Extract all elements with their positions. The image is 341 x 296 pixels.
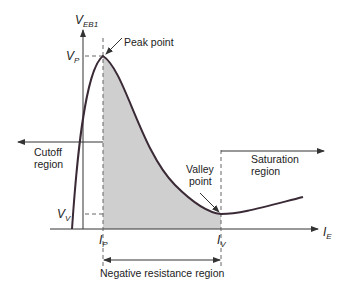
y-axis-label: VEB1: [75, 13, 98, 29]
iv-label: IV: [217, 233, 226, 249]
vp-label: VP: [66, 49, 80, 65]
valley-point-label-line1: Valley: [186, 163, 215, 175]
cutoff-region-label-line2: region: [34, 158, 63, 170]
negative-resistance-label: Negative resistance region: [100, 267, 224, 279]
cutoff-region-label-line1: Cutoff: [34, 146, 62, 158]
valley-point-label-line2: point: [189, 175, 212, 187]
x-axis-label: IE: [323, 225, 332, 241]
saturation-region-label-line2: region: [251, 165, 280, 177]
vv-label: VV: [57, 207, 71, 223]
peak-point-label: Peak point: [124, 36, 174, 48]
ujt-characteristic-diagram: VEB1 IE VP VV IP IV Peak point Valley po…: [0, 0, 341, 296]
peak-point-pointer: [106, 38, 122, 54]
saturation-region-label-line1: Saturation: [251, 153, 299, 165]
ip-label: IP: [99, 233, 108, 249]
